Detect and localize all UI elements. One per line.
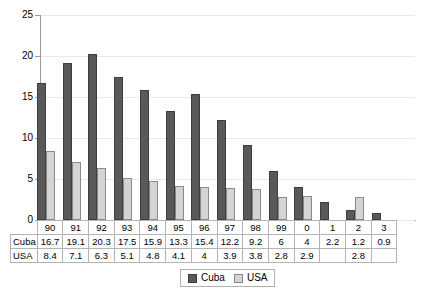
table-header-cell: 94 [140, 221, 166, 235]
bar-usa [252, 189, 261, 220]
bar-cuba [217, 120, 226, 220]
chart-legend: CubaUSA [180, 269, 275, 287]
table-data-cell: 19.1 [63, 235, 89, 249]
table-row-label: USA [11, 249, 38, 263]
table-data-cell: 2.8 [268, 249, 294, 263]
table-header-cell: 98 [243, 221, 269, 235]
bar-cuba [166, 111, 175, 220]
bar-usa [123, 178, 132, 220]
legend-entry: Cuba [188, 273, 225, 283]
legend-label: Cuba [201, 273, 225, 283]
bar-group [85, 15, 111, 220]
y-axis-tick-label: 10 [5, 133, 33, 143]
table-header-cell: 99 [268, 221, 294, 235]
table-data-cell: 1.2 [345, 235, 371, 249]
legend-label: USA [247, 273, 268, 283]
legend-swatch-cuba [188, 274, 197, 283]
table-header-cell: 97 [217, 221, 243, 235]
bar-group [239, 15, 265, 220]
table-data-cell: 16.7 [37, 235, 63, 249]
bar-group [110, 15, 136, 220]
table-row: 909192939495969798990123 [11, 221, 397, 235]
bar-usa [149, 181, 158, 220]
table-header-cell: 3 [371, 221, 397, 235]
bar-cuba [320, 202, 329, 220]
bar-group [368, 15, 394, 220]
bar-cuba [140, 90, 149, 220]
legend-entry: USA [234, 273, 268, 283]
bar-cuba [114, 77, 123, 221]
table-data-cell: 2.9 [294, 249, 320, 263]
table-data-cell: 12.2 [217, 235, 243, 249]
y-axis-tick-label: 25 [5, 10, 33, 20]
bar-group [213, 15, 239, 220]
table-data-cell: 8.4 [37, 249, 63, 263]
bar-cuba [294, 187, 303, 220]
table-header-cell: 91 [63, 221, 89, 235]
table-header-cell: 1 [320, 221, 346, 235]
bar-cuba [372, 213, 381, 220]
table-header-cell: 92 [89, 221, 115, 235]
table-data-cell: 3.9 [217, 249, 243, 263]
table-corner-cell [11, 221, 38, 235]
table-data-cell: 4 [294, 235, 320, 249]
bar-usa [278, 197, 287, 220]
chart-figure: 0510152025 909192939495969798990123Cuba1… [0, 0, 430, 300]
bar-cuba [63, 63, 72, 220]
table-data-cell: 9.2 [243, 235, 269, 249]
table-header-cell: 90 [37, 221, 63, 235]
table-data-cell: 0.9 [371, 235, 397, 249]
table-row: Cuba16.719.120.317.515.913.315.412.29.26… [11, 235, 397, 249]
bar-cuba [269, 171, 278, 220]
table-row: USA8.47.16.35.14.84.143.93.82.82.92.8 [11, 249, 397, 263]
y-axis-labels: 0510152025 [0, 0, 33, 240]
table-data-cell: 15.4 [191, 235, 217, 249]
data-table: 909192939495969798990123Cuba16.719.120.3… [10, 220, 397, 263]
bar-cuba [243, 145, 252, 220]
bar-group [188, 15, 214, 220]
table-data-cell: 20.3 [89, 235, 115, 249]
table-header-cell: 2 [345, 221, 371, 235]
table-data-cell: 2.8 [345, 249, 371, 263]
table-data-cell: 6 [268, 235, 294, 249]
y-axis-tick-label: 15 [5, 92, 33, 102]
table-data-cell: 3.8 [243, 249, 269, 263]
table-data-cell: 4.8 [140, 249, 166, 263]
table-data-cell: 5.1 [114, 249, 140, 263]
bar-cuba [37, 83, 46, 220]
table-data-cell: 4.1 [166, 249, 192, 263]
table-header-cell: 96 [191, 221, 217, 235]
table-data-cell [320, 249, 346, 263]
bar-cuba [346, 210, 355, 220]
table-data-cell: 4 [191, 249, 217, 263]
table-row-label: Cuba [11, 235, 38, 249]
bar-usa [72, 162, 81, 220]
table-data-cell: 17.5 [114, 235, 140, 249]
y-axis-tick-label: 5 [5, 174, 33, 184]
table-header-cell: 0 [294, 221, 320, 235]
bar-usa [226, 188, 235, 220]
legend-swatch-usa [234, 274, 243, 283]
bar-usa [355, 197, 364, 220]
table-data-cell: 13.3 [166, 235, 192, 249]
y-axis-tick-label: 20 [5, 51, 33, 61]
bar-group [136, 15, 162, 220]
bar-usa [200, 187, 209, 220]
bar-cuba [88, 54, 97, 220]
bar-usa [303, 196, 312, 220]
table-header-cell: 93 [114, 221, 140, 235]
bar-cuba [191, 94, 200, 220]
table-data-cell: 15.9 [140, 235, 166, 249]
bar-group [342, 15, 368, 220]
bar-group [162, 15, 188, 220]
table-data-cell [371, 249, 397, 263]
bar-group [33, 15, 59, 220]
table-data-cell: 7.1 [63, 249, 89, 263]
bar-usa [175, 186, 184, 220]
bar-series-container [41, 15, 415, 220]
table-header-cell: 95 [166, 221, 192, 235]
table-data-cell: 2.2 [320, 235, 346, 249]
bar-group [59, 15, 85, 220]
bar-usa [97, 168, 106, 220]
bar-group [316, 15, 342, 220]
